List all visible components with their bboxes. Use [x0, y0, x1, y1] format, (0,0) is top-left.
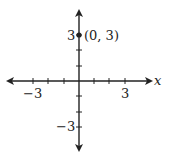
x-axis-label: x	[154, 73, 162, 88]
x-tick-label-3: 3	[121, 86, 129, 101]
y-tick-label-3: 3	[67, 28, 75, 43]
point-0-3	[76, 32, 81, 37]
coordinate-plane: (0, 3) 3 −3 −3 3 x	[0, 0, 170, 156]
point-label: (0, 3)	[84, 28, 119, 43]
y-tick-label-neg3: −3	[56, 119, 75, 134]
x-tick-label-neg3: −3	[23, 86, 42, 101]
